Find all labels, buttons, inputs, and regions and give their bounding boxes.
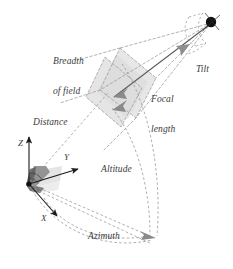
label-azimuth: Azimuth <box>88 232 120 242</box>
label-tilt: Tilt <box>196 65 209 75</box>
azimuth-direction-arrow <box>140 231 156 240</box>
origin-point <box>26 181 31 186</box>
camera-geometry-diagram: Breadth of field Focal length Tilt Dista… <box>0 0 233 269</box>
tilt-direction-arrow <box>176 44 190 56</box>
label-focal-length-line2: length <box>151 125 175 135</box>
label-breadth-of-field-line1: Breadth <box>53 57 84 67</box>
tilt-arc <box>185 13 206 54</box>
label-distance: Distance <box>33 118 68 128</box>
label-axis-z: Z <box>18 139 23 148</box>
diagram-canvas <box>0 0 233 269</box>
label-focal-length: Focal length <box>151 75 175 155</box>
label-breadth-of-field-line2: of field <box>53 87 84 97</box>
label-axis-y: Y <box>64 153 69 162</box>
label-altitude: Altitude <box>101 165 132 175</box>
label-axis-x: X <box>41 214 47 223</box>
label-focal-length-line1: Focal <box>151 95 175 105</box>
camera-eye-point <box>203 13 220 30</box>
label-breadth-of-field: Breadth of field <box>53 37 84 117</box>
